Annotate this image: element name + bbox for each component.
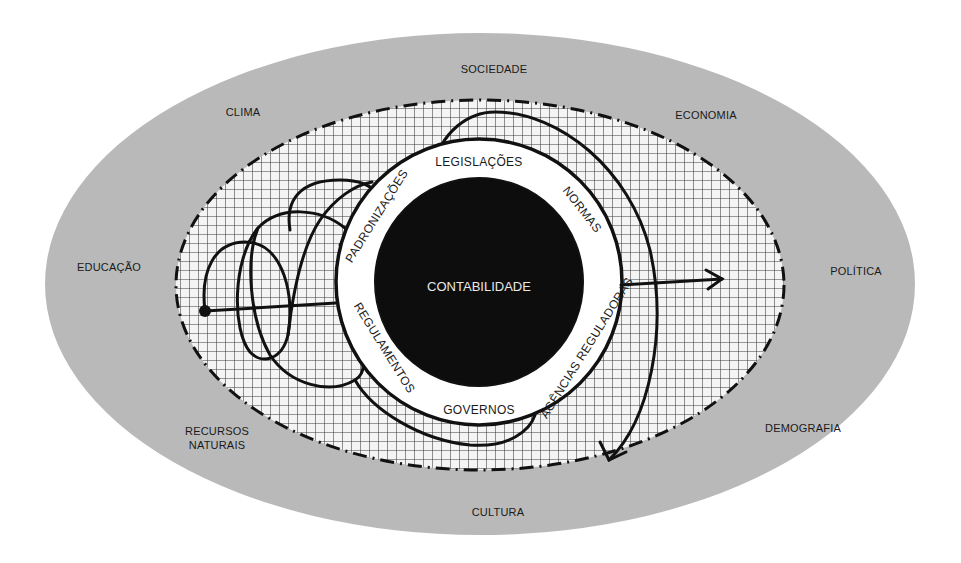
outer-label-politica: POLÍTICA <box>830 264 882 278</box>
outer-label-sociedade: SOCIEDADE <box>461 62 528 76</box>
center-label: CONTABILIDADE <box>427 279 531 294</box>
ring-label-legislacoes: LEGISLAÇÕES <box>435 154 522 169</box>
outer-label-cultura: CULTURA <box>472 505 525 519</box>
outer-label-economia: ECONOMIA <box>675 108 737 122</box>
outer-label-clima: CLIMA <box>226 105 261 119</box>
outer-label-recursos-line2: NATURAIS <box>185 438 249 452</box>
outer-label-recursos-line1: RECURSOS <box>185 424 249 438</box>
outer-label-educacao: EDUCAÇÃO <box>77 260 141 274</box>
outer-label-recursos-naturais: RECURSOS NATURAIS <box>185 424 249 452</box>
contabilidade-environment-diagram: LEGISLAÇÕES NORMAS AGÊNCIAS REGULADORAS … <box>0 0 961 563</box>
origin-dot <box>199 305 211 317</box>
ring-label-governos: GOVERNOS <box>443 403 515 417</box>
outer-label-demografia: DEMOGRAFIA <box>765 421 841 435</box>
